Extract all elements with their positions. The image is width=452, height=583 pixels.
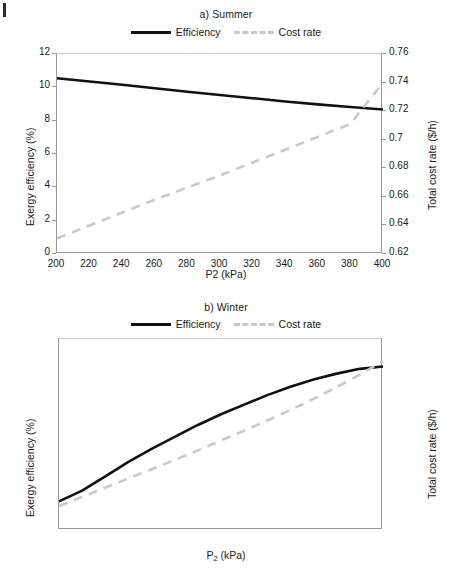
legend-label-cost-rate-winter: Cost rate xyxy=(279,318,322,330)
x-axis-title-summer: P2 (kPa) xyxy=(0,268,452,280)
legend-swatch-dashed-line-icon xyxy=(234,31,274,34)
series-line-efficiency-winter xyxy=(59,366,383,501)
y2-tick-label: 0.62 xyxy=(389,246,408,257)
y2-tick-label: 0.76 xyxy=(389,46,408,57)
y-tick-label: 10 xyxy=(4,79,50,90)
legend-swatch-solid-line-icon xyxy=(131,323,171,326)
series-line-cost-rate-winter xyxy=(59,361,383,506)
plot-svg-winter xyxy=(59,339,383,530)
plot-area-summer xyxy=(56,53,382,253)
plot-svg-summer xyxy=(57,54,383,254)
legend-entry-cost-rate-winter: Cost rate xyxy=(234,318,322,330)
y2-tick-mark xyxy=(382,196,386,197)
y2-tick-label: 0.66 xyxy=(389,189,408,200)
y-tick-label: 0 xyxy=(4,246,50,257)
panel-title-winter: b) Winter xyxy=(0,301,452,313)
legend-winter: Efficiency Cost rate xyxy=(0,318,452,330)
y-tick-mark xyxy=(52,153,56,154)
chart-panel-winter: b) Winter Efficiency Cost rate Exergy ef… xyxy=(0,291,452,583)
x-axis-title-winter-text: P2 (kPa) xyxy=(206,549,245,561)
y2-tick-mark xyxy=(382,139,386,140)
y-tick-mark xyxy=(52,186,56,187)
y-tick-label: 2 xyxy=(4,213,50,224)
y-axis-title-winter: Exergy efficiency (%) xyxy=(24,419,36,517)
y-tick-mark xyxy=(52,220,56,221)
y2-tick-mark xyxy=(382,82,386,83)
x-axis-title-winter: P2 (kPa) xyxy=(0,549,452,561)
y2-tick-label: 0.72 xyxy=(389,103,408,114)
legend-label-efficiency: Efficiency xyxy=(176,26,221,38)
series-line-efficiency-summer xyxy=(57,78,383,109)
y2-tick-label: 0.7 xyxy=(389,132,403,143)
y-tick-label: 6 xyxy=(4,146,50,157)
legend-label-cost-rate: Cost rate xyxy=(279,26,322,38)
y-tick-label: 4 xyxy=(4,179,50,190)
chart-panel-summer: a) Summer Efficiency Cost rate Exergy ef… xyxy=(0,0,452,291)
legend-swatch-dashed-line-icon xyxy=(234,323,274,326)
y-tick-mark xyxy=(52,86,56,87)
y2-tick-mark xyxy=(382,253,386,254)
figure-page: a) Summer Efficiency Cost rate Exergy ef… xyxy=(0,0,452,583)
y-tick-label: 8 xyxy=(4,113,50,124)
y2-axis-title-summer: Total cost rate ($/h) xyxy=(426,120,438,210)
panel-title-summer: a) Summer xyxy=(0,8,452,20)
y-tick-mark xyxy=(52,120,56,121)
legend-entry-cost-rate: Cost rate xyxy=(234,26,322,38)
y-axis-title-summer: Exergy efficiency (%) xyxy=(24,128,36,226)
y2-tick-mark xyxy=(382,167,386,168)
x-axis-title-subscript: 2 xyxy=(213,554,217,563)
y-tick-mark xyxy=(52,253,56,254)
y2-tick-mark xyxy=(382,53,386,54)
legend-label-efficiency-winter: Efficiency xyxy=(176,318,221,330)
legend-entry-efficiency-winter: Efficiency xyxy=(131,318,221,330)
plot-area-winter xyxy=(58,338,382,529)
y2-tick-mark xyxy=(382,224,386,225)
y2-tick-label: 0.68 xyxy=(389,160,408,171)
legend-summer: Efficiency Cost rate xyxy=(0,26,452,38)
y2-tick-label: 0.64 xyxy=(389,217,408,228)
y-tick-mark xyxy=(52,53,56,54)
y2-tick-mark xyxy=(382,110,386,111)
y2-axis-title-winter: Total cost rate ($/h) xyxy=(426,409,438,499)
y-tick-label: 12 xyxy=(4,46,50,57)
legend-swatch-solid-line-icon xyxy=(131,31,171,34)
y2-tick-label: 0.74 xyxy=(389,75,408,86)
legend-entry-efficiency: Efficiency xyxy=(131,26,221,38)
